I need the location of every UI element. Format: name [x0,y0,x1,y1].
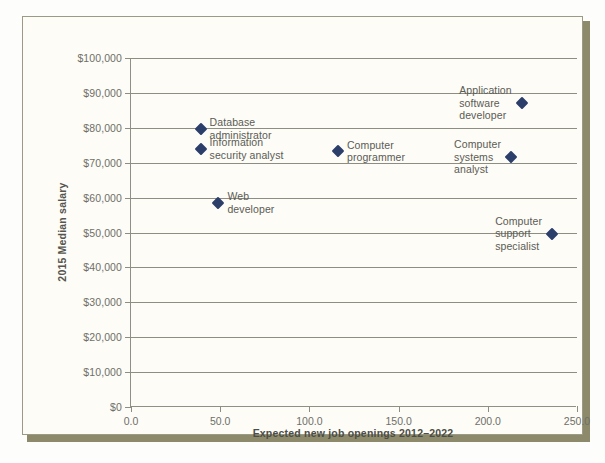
figure-frame: 2015 Median salary Expected new job open… [22,16,583,435]
x-axis-tick-label: 200.0 [475,415,501,427]
x-axis-tick-label: 150.0 [385,415,411,427]
x-axis-tick-label: 0.0 [124,415,139,427]
y-axis-tick-label: $60,000 [83,192,122,204]
y-axis-tick [125,337,131,338]
y-axis-tick [125,128,131,129]
data-point-label: Computer systems analyst [454,138,501,175]
gridline [131,337,577,338]
data-point-label: Application software developer [459,84,511,121]
data-point-marker[interactable] [546,227,559,240]
data-point-marker[interactable] [194,122,207,135]
data-point-label: Web developer [227,190,274,215]
data-point-label: Computer programmer [347,139,405,164]
y-axis-tick [125,163,131,164]
x-axis-tick-label: 250.0 [564,415,590,427]
x-axis-tick [577,406,578,412]
y-axis-tick [125,372,131,373]
x-axis-tick [309,406,310,412]
data-point-marker[interactable] [505,150,518,163]
y-axis-tick-label: $20,000 [83,331,122,343]
gridline [131,372,577,373]
x-axis-tick-label: 50.0 [210,415,230,427]
y-axis-tick-label: $90,000 [83,87,122,99]
x-axis-tick [399,406,400,412]
gridline [131,198,577,199]
data-point-marker[interactable] [515,97,528,110]
y-axis-tick-label: $70,000 [83,157,122,169]
x-axis-tick [488,406,489,412]
data-point-label: Computer support specialist [495,215,542,252]
x-axis-tick-label: 100.0 [296,415,322,427]
y-axis-tick-label: $50,000 [83,227,122,239]
y-axis-tick [125,233,131,234]
plot-area: $0$10,000$20,000$30,000$40,000$50,000$60… [130,58,576,407]
y-axis-tick [125,58,131,59]
gridline [131,267,577,268]
y-axis-title: 2015 Median salary [56,182,68,281]
x-axis-tick [131,406,132,412]
data-point-marker[interactable] [194,142,207,155]
gridline [131,302,577,303]
y-axis-tick [125,93,131,94]
y-axis-tick-label: $40,000 [83,261,122,273]
x-axis-title: Expected new job openings 2012–2022 [253,427,454,439]
y-axis-tick-label: $100,000 [77,52,122,64]
y-axis-tick [125,302,131,303]
y-axis-tick [125,198,131,199]
y-axis-tick-label: $80,000 [83,122,122,134]
y-axis-tick-label: $30,000 [83,296,122,308]
y-axis-tick-label: $10,000 [83,366,122,378]
x-axis-tick [220,406,221,412]
y-axis-tick [125,267,131,268]
scanned-page: 2015 Median salary Expected new job open… [0,0,605,463]
gridline [131,58,577,59]
data-point-marker[interactable] [332,145,345,158]
y-axis-tick-label: $0 [110,401,122,413]
data-point-label: Information security analyst [210,136,284,161]
